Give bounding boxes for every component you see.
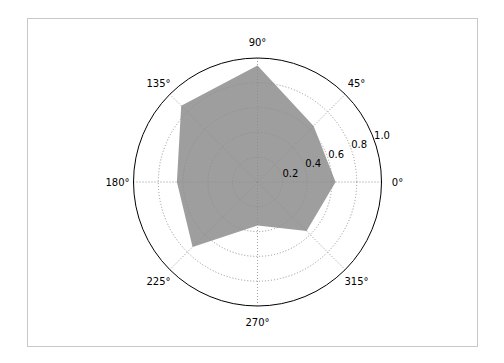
theta-tick-label: 90° xyxy=(249,37,267,48)
theta-tick-label: 180° xyxy=(105,177,129,188)
r-tick-label: 0.4 xyxy=(305,158,321,169)
theta-tick-label: 45° xyxy=(348,78,366,89)
data-area xyxy=(177,65,336,247)
r-tick-label: 0.2 xyxy=(282,168,298,179)
theta-tick-label: 135° xyxy=(146,78,170,89)
theta-tick-label: 270° xyxy=(245,317,269,328)
theta-tick-label: 0° xyxy=(392,177,403,188)
r-tick-label: 0.6 xyxy=(328,149,344,160)
r-tick-label: 1.0 xyxy=(374,130,390,141)
polar-chart: 0°45°90°135°180°225°270°315° 0.20.40.60.… xyxy=(0,0,504,363)
r-tick-label: 0.8 xyxy=(351,139,367,150)
theta-tick-label: 225° xyxy=(146,276,170,287)
theta-tick-label: 315° xyxy=(344,276,368,287)
